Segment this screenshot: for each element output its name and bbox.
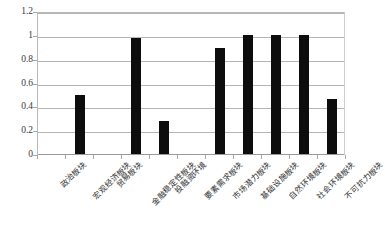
x-axis-tick	[177, 155, 178, 159]
x-axis-tick	[345, 155, 346, 159]
y-tick-label-4: 0.8	[0, 55, 33, 65]
y-tick-label-1: 0.2	[0, 126, 33, 136]
x-axis-label: 政治板块	[59, 160, 89, 190]
x-axis-tick	[65, 155, 66, 159]
y-tick-label-3: 0.6	[0, 79, 33, 89]
bar[interactable]	[299, 35, 309, 154]
bar[interactable]	[271, 35, 281, 154]
bar-slot	[122, 13, 150, 154]
bar-slot	[178, 13, 206, 154]
bar[interactable]	[131, 38, 141, 154]
bar-slot	[66, 13, 94, 154]
bar-slot	[234, 13, 262, 154]
bar-slot	[38, 13, 66, 154]
x-axis-category-labels: 政治板块宏观经济板块贸易板块金融稳定性板块投融资环境要素需求板块市场潜力板块基础…	[37, 160, 345, 238]
bar-slot	[262, 13, 290, 154]
x-axis-tick	[205, 155, 206, 159]
bar[interactable]	[243, 35, 253, 154]
x-axis-tick	[317, 155, 318, 159]
x-axis-tick	[261, 155, 262, 159]
bar-slot	[318, 13, 346, 154]
x-axis-tick	[289, 155, 290, 159]
bar-slot	[150, 13, 178, 154]
bar[interactable]	[159, 121, 169, 154]
x-axis-tick	[37, 155, 38, 159]
plot-area	[37, 12, 345, 155]
bar[interactable]	[75, 95, 85, 154]
x-axis-tick	[93, 155, 94, 159]
x-axis-tick	[233, 155, 234, 159]
y-tick-label-6: 1.2	[0, 7, 33, 17]
bar-slot	[290, 13, 318, 154]
bar[interactable]	[215, 48, 225, 154]
bar[interactable]	[327, 99, 337, 154]
x-axis-tick	[121, 155, 122, 159]
y-tick-label-0: 0	[0, 150, 33, 160]
y-tick-label-2: 0.4	[0, 103, 33, 113]
bars-layer	[38, 13, 344, 154]
x-axis-tick	[149, 155, 150, 159]
bar-slot	[206, 13, 234, 154]
y-tick-label-5: 1	[0, 31, 33, 41]
bar-slot	[94, 13, 122, 154]
y-axis-tick-labels: 0 0.2 0.4 0.6 0.8 1 1.2	[0, 12, 33, 155]
